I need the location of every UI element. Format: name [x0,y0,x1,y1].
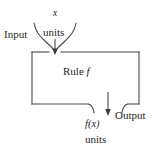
output-value-label: f(x) [85,119,100,130]
input-arrow-icon [52,39,58,55]
input-variable-label: x [53,9,57,19]
output-label: Output [115,110,146,121]
function-machine-diagram: Input x units Rule f f(x) units Output [0,0,157,151]
rule-label: Rule f [63,66,90,77]
input-units-label: units [43,27,64,38]
output-arrow-icon [105,92,111,116]
rule-text: Rule [63,65,84,77]
output-units-label: units [85,134,106,145]
rule-box-outline [32,52,139,104]
rule-function-symbol: f [87,65,90,77]
input-label: Input [4,29,27,40]
